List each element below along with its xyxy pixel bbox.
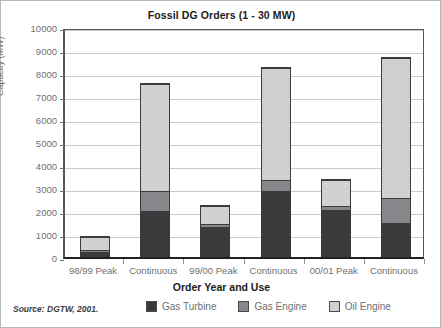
gridline	[65, 237, 423, 238]
bar-segment-gas-turbine[interactable]	[141, 211, 169, 257]
x-axis-label-5: 00/01 Peak	[304, 265, 364, 276]
bar-6[interactable]	[381, 57, 411, 257]
gridline	[65, 122, 423, 123]
y-axis-tick	[60, 145, 64, 146]
y-axis-tick-label: 8000	[9, 70, 57, 80]
x-axis-label-3: 99/00 Peak	[183, 265, 243, 276]
bar-segment-gas-engine[interactable]	[262, 180, 290, 190]
legend-label: Gas Turbine	[162, 301, 216, 312]
y-axis-tick-label: 5000	[9, 139, 57, 149]
y-axis-tick	[60, 260, 64, 261]
bar-segment-oil-engine[interactable]	[81, 237, 109, 250]
x-axis-tick	[424, 259, 425, 264]
bar-1[interactable]	[80, 236, 110, 257]
y-axis-tick	[60, 214, 64, 215]
x-axis-label-1: 98/99 Peak	[63, 265, 123, 276]
x-axis-label-2: Continuous	[123, 265, 183, 276]
legend-swatch-icon	[238, 301, 249, 312]
y-axis-title: Capacity (MW)	[0, 36, 5, 96]
x-axis-tick	[123, 259, 124, 264]
x-axis-label-6: Continuous	[364, 265, 424, 276]
bar-segment-gas-turbine[interactable]	[81, 252, 109, 257]
chart-frame: Fossil DG Orders (1 - 30 MW) Capacity (M…	[0, 0, 441, 328]
x-axis-title: Order Year and Use	[1, 281, 441, 293]
gridline	[65, 214, 423, 215]
bar-segment-gas-engine[interactable]	[382, 198, 410, 223]
y-axis-tick	[60, 30, 64, 31]
x-axis-label-4: Continuous	[244, 265, 304, 276]
bar-segment-oil-engine[interactable]	[382, 58, 410, 198]
y-axis-tick	[60, 191, 64, 192]
gridline	[65, 191, 423, 192]
bar-segment-oil-engine[interactable]	[262, 68, 290, 180]
bar-segment-gas-turbine[interactable]	[322, 210, 350, 257]
bar-5[interactable]	[321, 179, 351, 257]
gridline	[65, 168, 423, 169]
gridline	[65, 145, 423, 146]
legend-swatch-icon	[329, 301, 340, 312]
legend-label: Oil Engine	[345, 301, 391, 312]
chart-legend: Gas TurbineGas EngineOil Engine	[146, 301, 391, 312]
bar-segment-gas-turbine[interactable]	[382, 223, 410, 257]
x-axis-tick	[244, 259, 245, 264]
bar-segment-oil-engine[interactable]	[322, 180, 350, 206]
bar-4[interactable]	[261, 67, 291, 257]
y-axis-tick-label: 4000	[9, 162, 57, 172]
y-axis-tick-label: 1000	[9, 231, 57, 241]
gridline	[65, 53, 423, 54]
y-axis-tick	[60, 76, 64, 77]
bar-segment-oil-engine[interactable]	[141, 84, 169, 190]
legend-swatch-icon	[146, 301, 157, 312]
gridline	[65, 99, 423, 100]
y-axis-tick-label: 9000	[9, 47, 57, 57]
source-note: Source: DGTW, 2001.	[13, 304, 98, 314]
plot-area	[63, 29, 424, 259]
bar-segment-oil-engine[interactable]	[201, 206, 229, 224]
y-axis-tick	[60, 53, 64, 54]
y-axis-tick-label: 7000	[9, 93, 57, 103]
x-axis-tick	[183, 259, 184, 264]
gridline	[65, 30, 423, 31]
y-axis-tick-label: 0	[9, 254, 57, 264]
y-axis-tick-label: 6000	[9, 116, 57, 126]
y-axis-tick	[60, 122, 64, 123]
y-axis-tick	[60, 168, 64, 169]
bar-segment-gas-turbine[interactable]	[201, 227, 229, 257]
legend-item-gas-engine[interactable]: Gas Engine	[238, 301, 306, 312]
bar-segment-gas-engine[interactable]	[141, 191, 169, 212]
y-axis-tick-label: 10000	[9, 24, 57, 34]
legend-label: Gas Engine	[254, 301, 306, 312]
bar-segment-gas-turbine[interactable]	[262, 191, 290, 257]
y-axis-tick	[60, 99, 64, 100]
chart-title: Fossil DG Orders (1 - 30 MW)	[1, 9, 441, 21]
x-axis-tick	[364, 259, 365, 264]
y-axis-tick-label: 2000	[9, 208, 57, 218]
x-axis-tick	[304, 259, 305, 264]
gridline	[65, 76, 423, 77]
bar-2[interactable]	[140, 83, 170, 257]
y-axis-tick-label: 3000	[9, 185, 57, 195]
bar-3[interactable]	[200, 205, 230, 257]
legend-item-gas-turbine[interactable]: Gas Turbine	[146, 301, 216, 312]
y-axis-tick	[60, 237, 64, 238]
legend-item-oil-engine[interactable]: Oil Engine	[329, 301, 391, 312]
